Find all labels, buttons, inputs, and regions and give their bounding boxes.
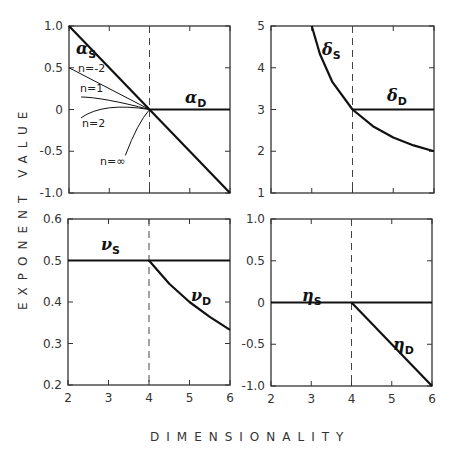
y-tick-label: 1.0 xyxy=(246,212,265,226)
y-tick-label: 0.2 xyxy=(43,378,62,392)
x-tick-label: 5 xyxy=(186,391,194,405)
series-label-eta_S: ηS xyxy=(302,286,322,308)
series-n=∞ xyxy=(125,110,149,156)
series-label-eta_D: ηD xyxy=(393,335,414,357)
series-label-nu_S: νS xyxy=(101,235,120,257)
y-tick-label: 1 xyxy=(257,186,265,200)
series-label-nu_D: νD xyxy=(191,286,211,308)
annotation-n=∞: n=∞ xyxy=(100,155,125,168)
y-tick-label: 0.4 xyxy=(43,295,62,309)
y-tick-label: -0.5 xyxy=(242,337,265,351)
x-tick-label: 6 xyxy=(226,391,234,405)
y-tick-label: -1.0 xyxy=(242,379,265,393)
exponent-chart-figure: EXPONENT VALUE DIMENSIONALITY 1.00.50-0.… xyxy=(0,0,459,451)
x-tick-label: 6 xyxy=(428,392,436,406)
y-axis-title: EXPONENT VALUE xyxy=(16,105,30,310)
panel-top-left: 1.00.50-0.5-1.0αSαDn=-2n=1n=2n=∞ xyxy=(40,19,230,200)
x-axis-title: DIMENSIONALITY xyxy=(150,430,350,444)
y-tick-label: 0.3 xyxy=(43,337,62,351)
x-tick-label: 5 xyxy=(388,392,396,406)
y-tick-label: 2 xyxy=(257,144,265,158)
y-tick-label: -0.5 xyxy=(40,144,63,158)
x-tick-label: 4 xyxy=(145,391,153,405)
annotation-n=1: n=1 xyxy=(80,82,103,95)
panel-bottom-left: 234560.60.50.40.30.2νSνD xyxy=(43,212,234,405)
x-tick-label: 2 xyxy=(267,392,275,406)
series-nu_D xyxy=(149,261,230,330)
y-tick-label: -1.0 xyxy=(40,186,63,200)
x-tick-label: 4 xyxy=(348,392,356,406)
series-label-alpha_D: αD xyxy=(185,88,206,110)
y-tick-label: 0.5 xyxy=(44,61,63,75)
annotation-n=2: n=2 xyxy=(82,117,105,130)
y-tick-label: 0.6 xyxy=(43,212,62,226)
series-label-alpha_S: αS xyxy=(76,39,96,61)
y-tick-label: 4 xyxy=(257,61,265,75)
y-tick-label: 0.5 xyxy=(43,254,62,268)
x-tick-label: 3 xyxy=(307,392,315,406)
panel-top-right: 54321δSδD xyxy=(257,19,434,200)
annotation-n=-2: n=-2 xyxy=(78,62,105,75)
series-eta_D xyxy=(352,303,433,387)
series-label-delta_S: δS xyxy=(321,40,341,62)
x-tick-label: 2 xyxy=(64,391,72,405)
y-tick-label: 1.0 xyxy=(44,19,63,33)
y-tick-label: 0 xyxy=(55,103,63,117)
y-tick-label: 0 xyxy=(257,296,265,310)
x-tick-label: 3 xyxy=(105,391,113,405)
y-tick-label: 3 xyxy=(257,103,265,117)
panel-bottom-right: 234561.00.50-0.5-1.0ηSηD xyxy=(242,212,436,406)
series-label-delta_D: δD xyxy=(386,86,407,108)
y-tick-label: 5 xyxy=(257,19,265,33)
y-tick-label: 0.5 xyxy=(246,254,265,268)
